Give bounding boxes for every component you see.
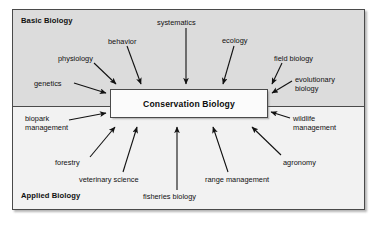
node-veterinary-science[interactable]: veterinary science [79, 175, 139, 184]
node-genetics[interactable]: genetics [34, 79, 62, 88]
node-range-management[interactable]: range management [205, 175, 269, 184]
node-fisheries-biology[interactable]: fisheries biology [143, 192, 196, 201]
node-wildlife-management[interactable]: wildlife management [293, 114, 336, 133]
center-node-label: Conservation Biology [143, 99, 235, 109]
node-physiology[interactable]: physiology [58, 54, 93, 63]
node-evolutionary-biology[interactable]: evolutionary biology [295, 75, 335, 94]
center-node-conservation-biology[interactable]: Conservation Biology [110, 89, 268, 118]
zone-label-applied-biology: Applied Biology [21, 191, 80, 200]
node-forestry[interactable]: forestry [55, 158, 80, 167]
node-field-biology[interactable]: field biology [274, 54, 313, 63]
node-systematics[interactable]: systematics [157, 18, 196, 27]
zone-label-basic-biology: Basic Biology [21, 16, 73, 25]
node-biopark-management[interactable]: biopark management [25, 114, 68, 133]
diagram-canvas: Basic Biology Applied Biology Conservati… [0, 0, 377, 225]
node-behavior[interactable]: behavior [108, 37, 136, 46]
node-agronomy[interactable]: agronomy [283, 158, 316, 167]
node-ecology[interactable]: ecology [222, 36, 247, 45]
